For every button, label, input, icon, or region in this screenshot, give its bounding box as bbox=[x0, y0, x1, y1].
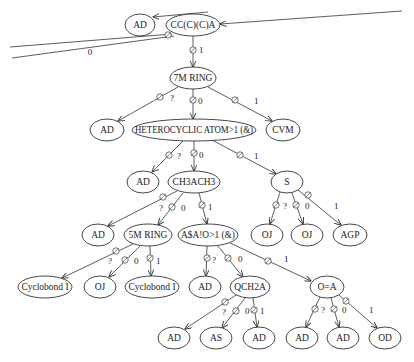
node-n_od_b6[interactable]: OD bbox=[369, 327, 401, 349]
node-label: Cyclobond I bbox=[128, 282, 175, 292]
node-n_as_b2[interactable]: AS bbox=[200, 327, 232, 349]
edge-label: 1 bbox=[334, 201, 339, 211]
edge-n_asa-n_ad_l4: ? bbox=[204, 246, 216, 276]
node-n_ad_l2[interactable]: AD bbox=[127, 171, 159, 193]
node-n_5mring[interactable]: 5M RING bbox=[124, 224, 172, 246]
edge-label: 1 bbox=[254, 151, 259, 161]
node-n_ad_l3[interactable]: AD bbox=[82, 224, 114, 246]
edge-line bbox=[208, 87, 272, 121]
node-n_ad_top[interactable]: AD bbox=[125, 14, 155, 36]
edge-label: 1 bbox=[199, 45, 204, 55]
node-n_root[interactable]: CC(C)(C)A bbox=[166, 14, 220, 36]
edge-label: ? bbox=[108, 256, 112, 266]
node-label: S bbox=[284, 177, 289, 187]
edge-label: ? bbox=[159, 203, 163, 213]
left-edge-label: 0 bbox=[88, 47, 93, 57]
node-label: AD bbox=[91, 230, 105, 240]
branch-marker-icon bbox=[312, 306, 318, 312]
edge-label: 1 bbox=[208, 202, 213, 212]
branch-marker-icon bbox=[305, 192, 311, 198]
incoming-root-edge bbox=[220, 11, 402, 24]
edge-label: 1 bbox=[260, 306, 265, 316]
edge-label: 0 bbox=[199, 150, 204, 160]
branch-marker-icon bbox=[169, 204, 175, 210]
edge-n_ch3ach3-n_ad_l3: ? bbox=[108, 191, 177, 226]
node-n_ad_b4[interactable]: AD bbox=[286, 327, 318, 349]
branch-marker-icon bbox=[166, 152, 172, 158]
branch-marker-icon bbox=[199, 202, 205, 208]
node-n_hetero[interactable]: HETEROCYCLIC ATOM>1 (&) bbox=[132, 119, 256, 141]
edge-line bbox=[185, 295, 236, 329]
node-n_oeqa[interactable]: O=A bbox=[310, 276, 344, 298]
edge-n_7mring-n_hetero: 0 bbox=[190, 89, 203, 119]
branch-marker-icon bbox=[190, 97, 196, 103]
node-label: CH3ACH3 bbox=[173, 177, 216, 187]
node-n_ch3ach3[interactable]: CH3ACH3 bbox=[168, 171, 220, 193]
node-label: O=A bbox=[317, 282, 336, 292]
node-label: AD bbox=[167, 333, 181, 343]
edge-label: ? bbox=[170, 93, 174, 103]
node-label: A$A!O>1 (&) bbox=[181, 230, 235, 241]
branch-marker-icon bbox=[251, 307, 257, 313]
node-n_s[interactable]: S bbox=[271, 171, 303, 193]
branch-marker-icon bbox=[237, 152, 243, 158]
node-label: AD bbox=[100, 125, 114, 135]
node-label: CVM bbox=[272, 125, 294, 135]
root-left-branch-marker bbox=[165, 32, 171, 38]
node-n_ad_l1[interactable]: AD bbox=[90, 119, 124, 141]
edge-line bbox=[331, 298, 339, 327]
node-label: 5M RING bbox=[129, 230, 168, 240]
branch-marker-icon bbox=[273, 202, 279, 208]
edge-n_7mring-n_ad_l1: ? bbox=[118, 87, 178, 121]
node-label: 7M RING bbox=[174, 73, 213, 83]
edge-n_qch2a-n_ad_b1: ? bbox=[185, 295, 236, 329]
branch-marker-icon bbox=[160, 194, 166, 200]
edge-label: 1 bbox=[284, 254, 289, 264]
node-n_cvm[interactable]: CVM bbox=[266, 119, 300, 141]
tree-svg: 0 1?01?01?01?01?01?01?01?01 ADCC(C)(C)A7… bbox=[0, 0, 414, 362]
branch-marker-icon bbox=[113, 248, 119, 254]
node-label: Cyclobond I bbox=[21, 282, 68, 292]
node-n_qch2a[interactable]: QCH2A bbox=[230, 276, 270, 298]
branch-marker-icon bbox=[222, 299, 228, 305]
edge-label: 0 bbox=[245, 306, 250, 316]
edge-line bbox=[199, 193, 207, 224]
node-n_cyclo2[interactable]: Cyclobond I bbox=[125, 276, 179, 298]
branch-marker-icon bbox=[157, 94, 163, 100]
edge-n_hetero-n_ch3ach3: 0 bbox=[191, 141, 204, 171]
node-n_oj_s2[interactable]: OJ bbox=[291, 224, 323, 246]
edge-label: 1 bbox=[369, 305, 374, 315]
edge-label: ? bbox=[222, 307, 226, 317]
node-n_ad_l4[interactable]: AD bbox=[189, 276, 221, 298]
node-n_7mring[interactable]: 7M RING bbox=[170, 67, 216, 89]
edge-label: ? bbox=[212, 255, 216, 265]
branch-marker-icon bbox=[233, 308, 239, 314]
node-n_ad_b1[interactable]: AD bbox=[158, 327, 190, 349]
node-label: AD bbox=[295, 333, 309, 343]
branch-marker-icon bbox=[343, 298, 349, 304]
node-label: HETEROCYCLIC ATOM>1 (&) bbox=[135, 125, 253, 136]
node-n_oj_s1[interactable]: OJ bbox=[251, 224, 283, 246]
node-label: CC(C)(C)A bbox=[171, 20, 216, 31]
node-label: AD bbox=[336, 333, 350, 343]
edge-label: 0 bbox=[198, 96, 203, 106]
node-n_oj_5m[interactable]: OJ bbox=[84, 276, 116, 298]
node-n_ad_b5[interactable]: AD bbox=[327, 327, 359, 349]
edge-n_qch2a-n_ad_b3: 1 bbox=[251, 298, 265, 327]
edge-n_s-n_oj_s1: ? bbox=[270, 192, 287, 224]
branch-marker-icon bbox=[225, 255, 231, 261]
edge-n_hetero-n_ad_l2: ? bbox=[152, 141, 183, 172]
node-n_agp[interactable]: AGP bbox=[333, 224, 367, 246]
node-label: AS bbox=[210, 333, 222, 343]
node-label: AD bbox=[198, 282, 212, 292]
node-n_cyclo1[interactable]: Cyclobond I bbox=[18, 276, 72, 298]
edge-line bbox=[108, 191, 177, 226]
node-label: AGP bbox=[340, 230, 359, 240]
branch-marker-icon bbox=[232, 97, 238, 103]
node-label: OJ bbox=[302, 230, 313, 240]
outgoing-left-edge-lower bbox=[12, 36, 174, 58]
node-n_asa[interactable]: A$A!O>1 (&) bbox=[178, 224, 238, 246]
node-n_ad_b3[interactable]: AD bbox=[243, 327, 275, 349]
edge-label: 1 bbox=[156, 256, 161, 266]
outgoing-left-edge-upper bbox=[10, 34, 172, 47]
